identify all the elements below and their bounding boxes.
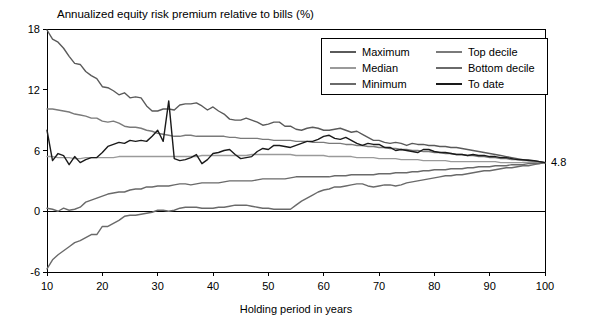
x-tick-label: 50 [262,280,274,292]
legend-label-to-date[interactable]: To date [468,78,504,90]
series-line-bottom-decile [47,163,545,212]
x-tick-label: 80 [428,280,440,292]
y-tick-label: 6 [34,145,40,157]
x-axis-title: Holding period in years [240,303,353,315]
chart-title: Annualized equity risk premium relative … [57,8,314,20]
y-axis-ticks: -6061218 [28,23,47,278]
y-tick-label: 0 [34,205,40,217]
equity-risk-premium-line-chart: Annualized equity risk premium relative … [0,0,599,326]
series-line-minimum [47,163,545,269]
legend-label-bottom-decile[interactable]: Bottom decile [468,62,535,74]
x-tick-label: 10 [41,280,53,292]
x-tick-label: 70 [373,280,385,292]
y-tick-label: -6 [30,266,40,278]
legend-label-top-decile[interactable]: Top decile [468,46,518,58]
x-axis-ticks: 102030405060708090100 [41,272,554,292]
chart-container: Annualized equity risk premium relative … [0,0,599,326]
x-tick-label: 30 [152,280,164,292]
legend-label-minimum[interactable]: Minimum [362,78,407,90]
x-tick-label: 40 [207,280,219,292]
x-tick-label: 60 [318,280,330,292]
y-tick-label: 12 [28,84,40,96]
legend-label-median[interactable]: Median [362,62,398,74]
end-value-annotation: 4.8 [551,156,566,168]
chart-legend[interactable]: MaximumTop decileMedianBottom decileMini… [321,38,547,94]
x-tick-label: 20 [96,280,108,292]
legend-label-maximum[interactable]: Maximum [362,46,410,58]
x-tick-label: 90 [484,280,496,292]
y-tick-label: 18 [28,23,40,35]
x-tick-label: 100 [536,280,554,292]
